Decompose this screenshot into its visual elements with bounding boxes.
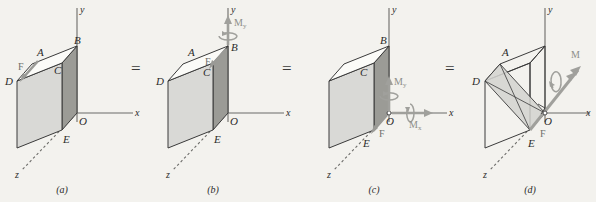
panel-caption-b: (b) [207,184,219,196]
axis-label-y-a: y [79,4,85,15]
vertex-label-E-b: E [213,133,221,145]
moment-label-My-c: My [394,76,407,89]
moment-label-Mx-c: Mx [409,119,422,132]
vertex-label-D-d: D [471,75,480,87]
moment-spin-M-d [551,72,561,92]
vertex-label-C-a: C [54,64,62,76]
axis-label-x-a: x [134,107,140,118]
vertex-label-B-a: B [74,34,81,46]
moment-label-M-d: M [571,49,580,60]
equals-operator-1: = [131,59,141,78]
moment-spin-head-M-d [549,81,555,87]
vertex-label-D-b: D [155,75,164,87]
equals-operator-2: = [282,59,292,78]
vertex-label-C-c: C [360,66,368,78]
panel-c: B C E O y x z F My Mx (c) [326,4,454,196]
vertex-label-O-c: O [386,115,394,127]
vertex-label-O-b: O [230,115,238,127]
axis-label-x-d: x [585,107,591,118]
vertex-label-O-d: O [544,115,552,127]
moment-arrowhead-My-b [224,15,232,24]
axis-label-z-b: z [165,169,170,180]
vertex-label-A-b: A [187,46,195,58]
axis-label-z-d: z [482,169,487,180]
panel-caption-a: (a) [56,184,68,196]
vertex-label-E-d: E [527,137,535,149]
vertex-label-O-a: O [79,115,87,127]
panel-caption-c: (c) [368,184,380,196]
force-label-a: F [18,61,24,72]
panel-caption-d: (d) [524,184,536,196]
panel-a: A B C D E O y x z F (a) [4,4,140,196]
axis-label-y-d: y [547,4,553,15]
vertex-label-C-b: C [203,66,211,78]
force-label-c: F [379,128,385,139]
force-label-d: F [540,128,546,139]
panel-d: A D E O y x z F M (d) [471,4,591,196]
axis-label-x-c: x [448,107,454,118]
moment-arrowhead-Mx-c [424,109,433,117]
axis-label-z-a: z [14,169,19,180]
vertex-label-E-c: E [362,137,370,149]
axis-label-y-b: y [230,4,236,15]
moment-label-My-b: My [234,17,247,30]
vertex-label-A-a: A [36,46,44,58]
axis-label-z-c: z [326,169,331,180]
axis-label-x-b: x [285,107,291,118]
vertex-label-D-a: D [4,75,13,87]
vertex-label-A-d: A [501,46,509,58]
moment-transfer-figure: A B C D E O y x z F (a) = A B C D E O y … [0,0,596,202]
vertex-label-B-c: B [380,34,387,46]
axis-label-y-c: y [391,4,397,15]
vertex-label-E-a: E [62,133,70,145]
force-label-b: F [205,56,211,67]
vertex-label-B-b: B [231,41,238,53]
panel-b: A B C D E O y x z F My (b) [155,4,291,196]
equals-operator-3: = [445,59,455,78]
